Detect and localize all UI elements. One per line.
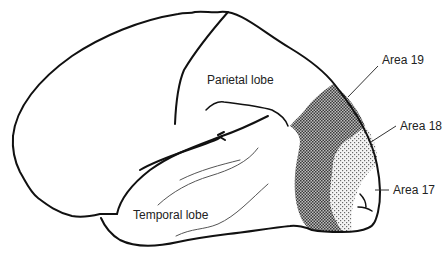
occipital-notch (358, 194, 372, 211)
lateral-sulcus (140, 132, 225, 170)
label-parietal-lobe: Parietal lobe (207, 73, 274, 87)
leader-area-19 (348, 66, 378, 97)
central-sulcus (175, 12, 228, 124)
parietal-sulcus (206, 102, 288, 126)
label-area-18: Area 18 (400, 119, 442, 133)
brain-diagram: Parietal lobe Temporal lobe Area 19 Area… (0, 0, 444, 267)
label-area-17: Area 17 (393, 183, 435, 197)
leader-area-18 (371, 126, 396, 142)
parietal-temporal-sulcus (180, 160, 240, 180)
label-area-19: Area 19 (382, 53, 424, 67)
temporal-lobe-outline (117, 116, 268, 214)
label-temporal-lobe: Temporal lobe (133, 208, 209, 222)
frontal-lower-outline (13, 136, 117, 217)
